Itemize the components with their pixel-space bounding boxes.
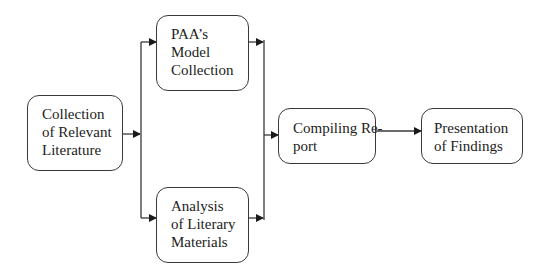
node-text: of Relevant — [42, 123, 112, 141]
node-text: of Findings — [434, 137, 512, 155]
node-text: Model — [171, 43, 238, 61]
node-analysis-of-literary-materials: Analysis of Literary Materials — [156, 187, 249, 263]
node-presentation-of-findings: Presentation of Findings — [421, 108, 523, 164]
node-text: of Literary — [171, 215, 238, 233]
flowchart-canvas: Collection of Relevant Literature PAA’s … — [0, 0, 551, 272]
node-text: Literature — [42, 141, 112, 159]
node-compiling-report: Compiling Re- port — [278, 108, 376, 164]
node-text: PAA’s — [171, 25, 238, 43]
node-text: Analysis — [171, 197, 238, 215]
node-text: Compiling Re- — [293, 119, 365, 137]
node-text: Collection — [42, 105, 112, 123]
node-text: Presentation — [434, 119, 512, 137]
node-text: port — [293, 137, 365, 155]
node-paa-model-collection: PAA’s Model Collection — [156, 15, 249, 91]
node-text: Collection — [171, 61, 238, 79]
node-text: Materials — [171, 233, 238, 251]
node-collection-of-relevant-literature: Collection of Relevant Literature — [27, 95, 123, 171]
